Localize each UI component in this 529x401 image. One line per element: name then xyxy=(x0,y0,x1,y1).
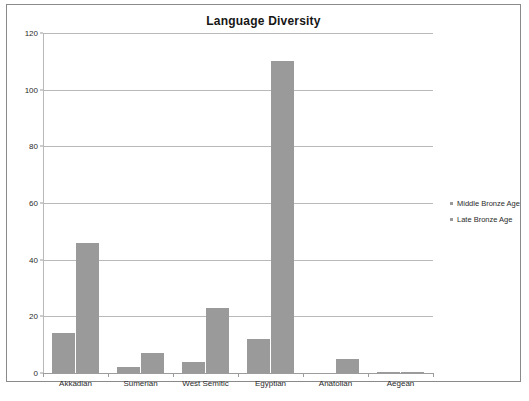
bar-group: West Semitic xyxy=(173,33,238,373)
x-tick-mark xyxy=(43,373,44,377)
square-marker xyxy=(450,218,453,221)
y-tick-label-120: 120 xyxy=(25,29,38,38)
bar-group: Sumerian xyxy=(108,33,173,373)
x-axis-label: Aegean xyxy=(387,379,415,388)
chart-frame: Language Diversity 020406080100120 Akkad… xyxy=(6,4,521,382)
bar[interactable] xyxy=(52,333,75,373)
bar[interactable] xyxy=(247,339,270,373)
legend-item[interactable]: Middle Bronze Age xyxy=(450,199,520,208)
bar[interactable] xyxy=(206,308,229,373)
bar[interactable] xyxy=(76,243,99,373)
bar-group: Anatolian xyxy=(303,33,368,373)
y-tick-label-40: 40 xyxy=(29,255,38,264)
bar[interactable] xyxy=(182,362,205,373)
bar[interactable] xyxy=(271,61,294,373)
bar-group: Aegean xyxy=(368,33,433,373)
bar[interactable] xyxy=(141,353,164,373)
legend-item[interactable]: Late Bronze Age xyxy=(450,215,520,224)
x-tick-mark xyxy=(368,373,369,377)
bars-layer: AkkadianSumerianWest SemiticEgyptianAnat… xyxy=(43,33,433,373)
bar[interactable] xyxy=(336,359,359,373)
x-axis-label: Anatolian xyxy=(319,379,352,388)
x-axis-label: Sumerian xyxy=(123,379,157,388)
y-tick-label-20: 20 xyxy=(29,312,38,321)
bar[interactable] xyxy=(117,367,140,373)
x-tick-mark xyxy=(303,373,304,377)
chart-legend: Middle Bronze AgeLate Bronze Age xyxy=(450,199,520,224)
x-axis-label: Egyptian xyxy=(255,379,286,388)
y-tick-label-60: 60 xyxy=(29,199,38,208)
y-tick-label-100: 100 xyxy=(25,85,38,94)
bar-group: Akkadian xyxy=(43,33,108,373)
bar[interactable] xyxy=(401,372,424,373)
y-tick-label-0: 0 xyxy=(34,369,38,378)
y-tick-label-80: 80 xyxy=(29,142,38,151)
legend-item-label: Middle Bronze Age xyxy=(457,199,520,208)
square-marker xyxy=(450,202,453,205)
bar-group: Egyptian xyxy=(238,33,303,373)
chart-title: Language Diversity xyxy=(7,14,520,28)
x-tick-mark xyxy=(108,373,109,377)
x-axis-label: West Semitic xyxy=(182,379,229,388)
legend-item-label: Late Bronze Age xyxy=(457,215,512,224)
x-tick-mark xyxy=(433,373,434,377)
bar[interactable] xyxy=(377,372,400,373)
x-tick-mark xyxy=(238,373,239,377)
plot-area: 020406080100120 AkkadianSumerianWest Sem… xyxy=(43,33,433,373)
x-axis-label: Akkadian xyxy=(59,379,92,388)
x-tick-mark xyxy=(173,373,174,377)
